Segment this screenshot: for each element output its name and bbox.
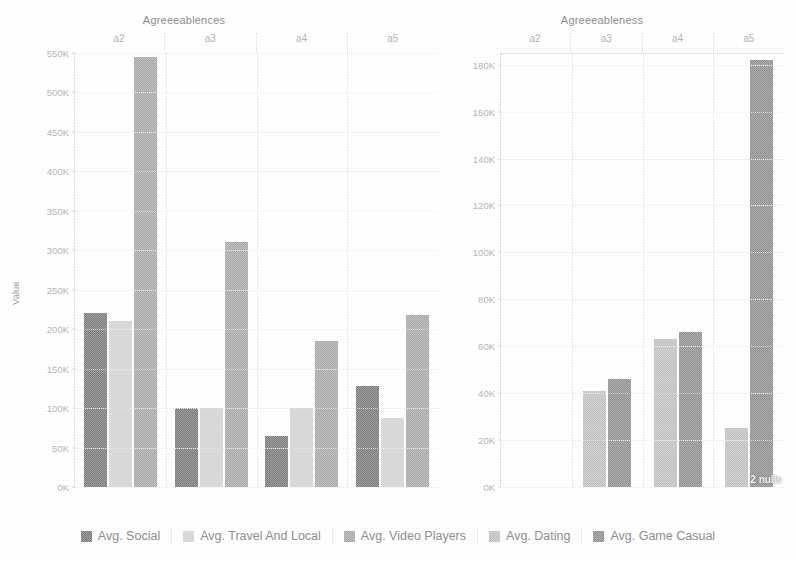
y-axis-tick-label-left: 400K [47,166,75,177]
x-axis-tick-label: a4 [672,33,683,44]
chart-legend: Avg. SocialAvg. Travel And LocalAvg. Vid… [0,529,796,543]
bar-group-a4 [257,53,348,487]
bar-avg-game-casual-a3[interactable] [608,379,631,487]
x-axis-tick-left-a3: a3 [165,33,256,53]
y-axis-tick-label-left: 50K [52,442,75,453]
legend-item-avg-dating[interactable]: Avg. Dating [478,529,582,543]
y-axis-tick-label-left: 450K [47,126,75,137]
legend-swatch-icon [489,531,500,542]
y-axis-tick-label-left: 200K [47,324,75,335]
legend-swatch-icon [593,531,604,542]
x-axis-categories-left: a2a3a4a5 [74,33,438,54]
bar-group-a5 [713,53,784,487]
category-separator [643,53,644,487]
legend-label: Avg. Dating [506,529,570,543]
y-axis-tick-label-left: 100K [47,403,75,414]
y-axis-tick-label-right: 60K [478,341,501,352]
x-axis-tick-label: a3 [205,33,216,44]
plot-area-left: 0K50K100K150K200K250K300K350K400K450K500… [74,53,438,487]
bar-avg-video-players-a4[interactable] [315,341,338,487]
bar-avg-dating-a3[interactable] [583,391,606,487]
x-axis-tick-label: a4 [296,33,307,44]
y-axis-tick-label-left: 550K [47,48,75,59]
y-axis-tick-label-right: 80K [478,294,501,305]
chart-panel-right: Agreeeableness a2a3a4a5 2 nulls 0K20K40K… [448,0,796,565]
bar-group-a2 [501,53,572,487]
bar-avg-travel-and-local-a5[interactable] [381,418,404,487]
x-axis-tick-label: a3 [601,33,612,44]
y-axis-tick-label-right: 180K [473,59,501,70]
y-axis-tick-label-right: 100K [473,247,501,258]
bar-avg-video-players-a5[interactable] [406,315,429,487]
legend-item-avg-social[interactable]: Avg. Social [70,529,172,543]
chart-title-left: Agreeeablences [0,14,408,26]
legend-swatch-icon [344,531,355,542]
category-separator [572,53,573,487]
category-separator [713,53,714,487]
chart-panel-left: Agreeeablences Value a2a3a4a5 0K50K100K1… [0,0,448,565]
y-axis-tick-label-left: 150K [47,363,75,374]
x-axis-tick-right-a3: a3 [571,33,642,53]
y-axis-tick-label-left: 300K [47,245,75,256]
y-axis-title-left: Value [10,281,21,305]
legend-item-avg-travel-and-local[interactable]: Avg. Travel And Local [172,529,333,543]
y-axis-tick-label-left: 500K [47,87,75,98]
y-axis-tick-label-right: 40K [478,388,501,399]
category-separator [347,53,348,487]
x-axis-tick-right-a5: a5 [714,33,784,53]
y-axis-tick-label-right: 160K [473,106,501,117]
x-axis-categories-right: a2a3a4a5 [500,33,784,54]
bar-avg-social-a4[interactable] [265,436,288,487]
legend-item-avg-video-players[interactable]: Avg. Video Players [333,529,478,543]
x-axis-tick-label: a2 [530,33,541,44]
bar-avg-video-players-a2[interactable] [134,57,157,487]
bar-group-a3 [166,53,257,487]
category-separator [166,53,167,487]
bar-avg-dating-a4[interactable] [654,339,677,487]
x-axis-tick-left-a5: a5 [348,33,438,53]
gridline [501,487,784,488]
chart-canvas: Agreeeablences Value a2a3a4a5 0K50K100K1… [0,0,796,565]
legend-label: Avg. Video Players [361,529,466,543]
y-axis-tick-label-left: 350K [47,205,75,216]
bar-avg-video-players-a3[interactable] [225,242,248,487]
legend-label: Avg. Travel And Local [200,529,321,543]
bar-avg-game-casual-a5[interactable] [750,60,773,487]
y-axis-tick-label-right: 140K [473,153,501,164]
legend-item-avg-game-casual[interactable]: Avg. Game Casual [582,529,726,543]
y-axis-tick-label-left: 0K [57,482,75,493]
legend-label: Avg. Social [98,529,160,543]
y-axis-tick-label-right: 0K [483,482,501,493]
bar-group-a2 [75,53,166,487]
y-axis-tick-label-left: 250K [47,284,75,295]
legend-label: Avg. Game Casual [610,529,715,543]
bar-avg-social-a2[interactable] [84,313,107,487]
x-axis-tick-label: a5 [743,33,754,44]
legend-swatch-icon [81,531,92,542]
plot-area-right: 2 nulls 0K20K40K60K80K100K120K140K160K18… [500,53,784,487]
x-axis-tick-left-a2: a2 [74,33,165,53]
gridline [75,487,438,488]
y-axis-tick-label-right: 120K [473,200,501,211]
x-axis-tick-right-a4: a4 [643,33,714,53]
chart-title-right: Agreeeableness [428,14,776,26]
x-axis-tick-label: a2 [114,33,125,44]
bar-avg-dating-a5[interactable] [725,428,748,487]
x-axis-tick-right-a2: a2 [500,33,571,53]
bar-avg-social-a5[interactable] [356,386,379,487]
category-separator [257,53,258,487]
bar-group-a4 [643,53,714,487]
bar-avg-travel-and-local-a2[interactable] [109,321,132,487]
bar-avg-game-casual-a4[interactable] [679,332,702,487]
y-axis-tick-label-right: 20K [478,435,501,446]
bar-group-a5 [347,53,438,487]
x-axis-tick-label: a5 [387,33,398,44]
legend-swatch-icon [183,531,194,542]
x-axis-tick-left-a4: a4 [257,33,348,53]
nulls-annotation: 2 nulls [750,474,782,485]
bar-group-a3 [572,53,643,487]
